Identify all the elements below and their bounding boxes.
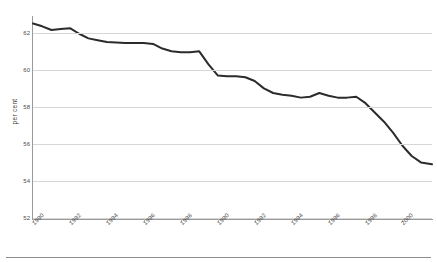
series-line — [33, 18, 432, 218]
gridline-y-62 — [33, 33, 432, 34]
gridline-y-60 — [33, 70, 432, 71]
y-axis-tick-labels: 525456586062 — [0, 0, 30, 262]
y-tick-label-62: 62 — [8, 30, 30, 36]
y-tick-label-54: 54 — [8, 178, 30, 184]
line-chart: per cent 525456586062 199019921994199619… — [0, 0, 437, 262]
gridline-y-56 — [33, 144, 432, 145]
gridline-y-54 — [33, 181, 432, 182]
gridline-y-58 — [33, 107, 432, 108]
y-tick-label-56: 56 — [8, 141, 30, 147]
plot-area — [33, 18, 432, 218]
y-tick-label-58: 58 — [8, 104, 30, 110]
x-axis-tick-labels: 1990199219941996199819901992199419961998… — [33, 220, 432, 260]
y-tick-label-52: 52 — [8, 215, 30, 221]
y-tick-label-60: 60 — [8, 67, 30, 73]
